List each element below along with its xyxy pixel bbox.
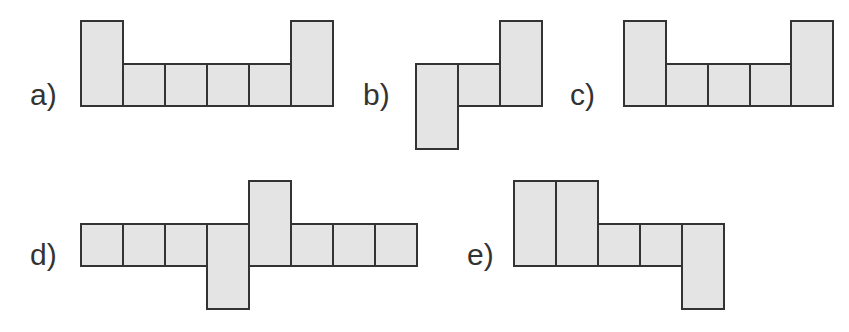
option-label: c) xyxy=(570,78,595,112)
net-cell xyxy=(555,180,599,267)
option-label: e) xyxy=(467,238,494,272)
net-cell xyxy=(639,223,683,267)
net-cell xyxy=(457,63,501,107)
option-label: a) xyxy=(30,78,57,112)
net-cell xyxy=(80,223,124,267)
net-cell xyxy=(513,180,557,267)
net-cell xyxy=(122,63,166,107)
option-label: d) xyxy=(30,238,57,272)
net-cell xyxy=(248,63,292,107)
net-cell xyxy=(597,223,641,267)
net-cell xyxy=(290,20,334,107)
net-cell xyxy=(164,223,208,267)
net-cell xyxy=(332,223,376,267)
net-cell xyxy=(206,63,250,107)
net-cell xyxy=(290,223,334,267)
net-cell xyxy=(248,180,292,267)
net-cell xyxy=(122,223,166,267)
nets-diagram: a)b)c)d)e) xyxy=(0,0,849,332)
net-cell xyxy=(707,63,751,107)
net-cell xyxy=(374,223,418,267)
net-cell xyxy=(164,63,208,107)
option-label: b) xyxy=(363,78,390,112)
net-cell xyxy=(681,223,725,310)
net-cell xyxy=(623,20,667,107)
net-cell xyxy=(80,20,124,107)
net-cell xyxy=(790,20,834,107)
net-cell xyxy=(499,20,543,107)
net-cell xyxy=(749,63,793,107)
net-cell xyxy=(415,63,459,150)
net-cell xyxy=(665,63,709,107)
net-cell xyxy=(206,223,250,310)
